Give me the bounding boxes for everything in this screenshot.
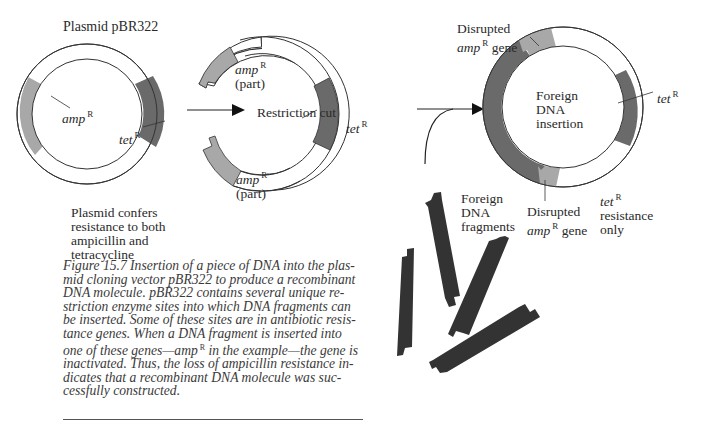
- amp-label-left: ampR: [62, 107, 93, 126]
- fragment-1: [425, 192, 460, 307]
- plasmid-title: Plasmid pBR322: [63, 20, 158, 34]
- fragment-2: [397, 248, 414, 356]
- foreign-dna-fragments-label: Foreign DNA fragments: [461, 192, 515, 234]
- arrow-right-icon: [187, 104, 245, 116]
- tet-label-middle: tetR: [346, 117, 368, 136]
- fragment-4: [429, 304, 540, 373]
- left-description: Plasmid confers resistance to both ampic…: [71, 206, 165, 262]
- tet-label-right: tetR: [657, 87, 679, 106]
- caption-rule: [63, 419, 363, 420]
- disrupted-amp-bottom-label: Disrupted ampR gene: [527, 205, 587, 238]
- tet-label-left: tetR: [119, 128, 141, 147]
- insertion-arrow-icon: [417, 103, 484, 164]
- foreign-dna-insertion-label: Foreign DNA insertion: [536, 89, 583, 131]
- amp-part-top-label: ampR (part): [235, 58, 266, 91]
- amp-top-piece: [199, 47, 238, 88]
- restriction-cut-label: Restriction cut: [257, 106, 336, 120]
- amp-part-bottom-label: ampR (part): [236, 168, 267, 201]
- disrupted-amp-top-label: Disrupted ampR gene: [457, 22, 517, 55]
- figure-caption: Figure 15.7 Insertion of a piece of DNA …: [63, 259, 363, 398]
- tet-resistance-only-label: tetR resistance only: [600, 190, 653, 237]
